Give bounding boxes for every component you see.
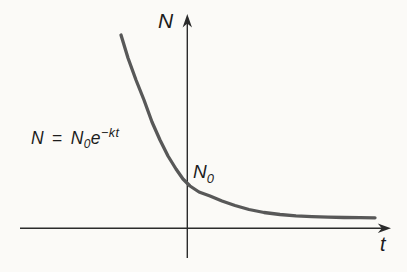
equation-label: N=N0e−kt [31, 127, 120, 151]
exponential-decay-figure: N t N0 N=N0e−kt [0, 0, 407, 272]
y-intercept-subscript: 0 [207, 171, 214, 186]
equation-lhs: N [31, 128, 44, 148]
y-axis-label: N [158, 9, 173, 32]
x-axis-label: t [380, 233, 386, 255]
equation-coefficient: N [71, 128, 84, 148]
equation-equals: = [52, 128, 63, 148]
equation-exp-base: e [91, 128, 101, 148]
equation-coefficient-subscript: 0 [84, 137, 91, 151]
y-intercept-base: N [193, 161, 207, 182]
y-intercept-label: N0 [193, 162, 214, 186]
equation-exponent: −kt [101, 126, 120, 140]
decay-curve [121, 35, 375, 218]
